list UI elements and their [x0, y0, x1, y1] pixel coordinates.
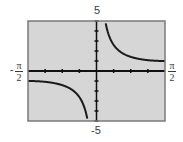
x-min-sign: - [10, 64, 13, 75]
x-min-numerator: π [16, 61, 21, 70]
x-min-label: π 2 [15, 61, 23, 82]
x-max-denominator: 2 [170, 73, 175, 82]
x-max-label: π 2 [168, 61, 176, 82]
y-max-label: 5 [90, 5, 104, 16]
x-max-numerator: π [169, 61, 174, 70]
x-min-denominator: 2 [17, 73, 22, 82]
y-min-label: -5 [86, 125, 106, 136]
graph-window [0, 0, 183, 142]
